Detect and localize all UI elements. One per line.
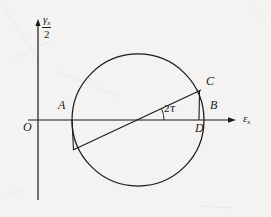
point-label-b: B	[210, 99, 217, 111]
mohrs-circle-figure	[0, 0, 271, 217]
point-label-c: C	[206, 75, 214, 87]
origin-label: O	[23, 121, 32, 133]
gamma-denominator: 2	[42, 28, 51, 41]
angle-label-2tau: 2τ	[164, 103, 176, 114]
x-axis-label: εx	[243, 113, 250, 126]
point-label-a: A	[58, 99, 65, 111]
paper-background	[0, 0, 271, 217]
gamma-subscript: x	[47, 19, 50, 27]
y-axis-label: γx 2	[42, 14, 51, 41]
perpendicular-CD	[199, 91, 200, 120]
tau-symbol: τ	[170, 102, 176, 115]
epsilon-subscript: x	[247, 118, 250, 126]
point-label-d: D	[195, 122, 204, 134]
gamma-numerator: γx	[42, 14, 51, 28]
